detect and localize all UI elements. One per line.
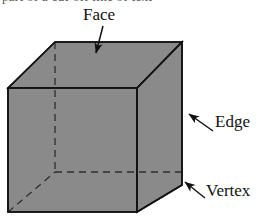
label-edge: Edge <box>215 113 250 130</box>
label-face: Face <box>83 6 115 23</box>
label-vertex: Vertex <box>206 182 250 199</box>
cube-diagram: part of a cut-off line of text <box>0 0 268 221</box>
cube-front-face <box>8 88 137 212</box>
vertex-arrow <box>185 182 205 198</box>
cube-body <box>8 42 182 212</box>
edge-arrow <box>189 114 213 131</box>
